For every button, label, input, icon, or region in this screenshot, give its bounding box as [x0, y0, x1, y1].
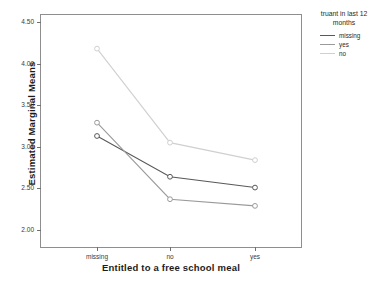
legend-entry-list: missingyesno [306, 31, 382, 58]
y-axis-title: Estimated Marginal Means [26, 44, 37, 204]
profile-plot-chart: Estimated Marginal Means Entitled to a f… [0, 0, 382, 283]
x-tick-label: no [140, 253, 200, 260]
y-tick-mark [37, 64, 41, 65]
legend-title-line-2: months [306, 19, 382, 28]
plot-area-frame [40, 14, 302, 248]
y-tick-label: 3.00 [4, 143, 34, 150]
legend-entry-label: missing [339, 32, 360, 39]
y-tick-mark [37, 22, 41, 23]
x-tick-mark [255, 247, 256, 251]
x-tick-label: missing [67, 253, 127, 260]
y-tick-mark [37, 105, 41, 106]
x-tick-label: yes [225, 253, 285, 260]
legend-entry-label: yes [339, 41, 349, 48]
y-tick-label: 2.00 [4, 226, 34, 233]
legend-title-line-1: truant in last 12 [306, 10, 382, 19]
legend-line-swatch [320, 53, 335, 54]
y-tick-label: 4.00 [4, 60, 34, 67]
legend-entry-missing: missing [306, 31, 382, 40]
legend-entry-no: no [306, 49, 382, 58]
legend-entry-yes: yes [306, 40, 382, 49]
x-axis-title: Entitled to a free school meal [40, 262, 302, 273]
legend: truant in last 12 months missingyesno [306, 10, 382, 58]
legend-title: truant in last 12 months [306, 10, 382, 27]
y-tick-mark [37, 188, 41, 189]
y-tick-mark [37, 147, 41, 148]
x-tick-mark [97, 247, 98, 251]
legend-line-swatch [320, 44, 335, 45]
legend-line-swatch [320, 35, 335, 36]
y-tick-label: 4.50 [4, 18, 34, 25]
y-tick-label: 2.50 [4, 184, 34, 191]
x-tick-mark [170, 247, 171, 251]
y-tick-label: 3.50 [4, 101, 34, 108]
y-tick-mark [37, 230, 41, 231]
legend-entry-label: no [339, 50, 346, 57]
